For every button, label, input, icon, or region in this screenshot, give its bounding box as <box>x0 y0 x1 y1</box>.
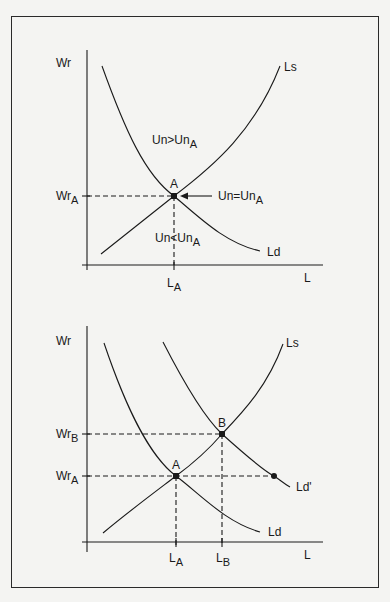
bottom-point-a-label: A <box>172 459 180 471</box>
bottom-point-a-marker <box>173 473 179 479</box>
bottom-wrb-label-main: Wr <box>56 427 71 441</box>
top-point-a-label: A <box>170 178 178 190</box>
bottom-lb-label-sub: B <box>223 556 230 568</box>
bottom-wra-label: WrA <box>56 470 78 482</box>
top-demand-curve-label: Ld <box>267 246 280 258</box>
top-la-label: LA <box>167 277 181 289</box>
top-demand-curve-ld <box>102 66 260 251</box>
top-x-axis-label: L <box>304 272 311 284</box>
top-wra-label: WrA <box>56 190 78 202</box>
equilibrium-arrow-head <box>180 193 188 200</box>
region-label-above-main: Un>Un <box>152 133 190 147</box>
bottom-point-b-label: B <box>218 417 226 429</box>
bottom-la-label-main: L <box>169 551 176 565</box>
top-wra-label-main: Wr <box>56 189 71 203</box>
bottom-wra-label-main: Wr <box>56 469 71 483</box>
bottom-la-label-sub: A <box>176 556 183 568</box>
bottom-la-label: LA <box>169 552 183 564</box>
region-label-below-main: Un<Un <box>155 231 193 245</box>
top-la-label-sub: A <box>174 281 181 293</box>
top-supply-curve-ls <box>101 66 280 254</box>
top-y-axis-label: Wr <box>56 57 71 69</box>
equilibrium-label-main: Un=Un <box>218 189 256 203</box>
region-label-below: Un<UnA <box>155 232 200 244</box>
bottom-wrb-label-sub: B <box>71 432 78 444</box>
equilibrium-label-sub: A <box>256 194 263 206</box>
bottom-y-axis-label: Wr <box>56 335 71 347</box>
bottom-wra-label-sub: A <box>71 474 78 486</box>
bottom-point-b-marker <box>219 431 225 437</box>
region-label-below-sub: A <box>193 236 200 248</box>
equilibrium-label: Un=UnA <box>218 190 263 202</box>
bottom-demand-shifted-curve-label: Ld' <box>296 481 312 493</box>
top-wra-label-sub: A <box>71 194 78 206</box>
bottom-lb-label-main: L <box>216 551 223 565</box>
bottom-x-axis-label: L <box>304 549 311 561</box>
region-label-above-sub: A <box>190 138 197 150</box>
bottom-ld-shifted-point-marker <box>271 473 277 479</box>
top-la-label-main: L <box>167 276 174 290</box>
bottom-demand-curve-ld <box>104 343 260 532</box>
labor-market-diagram <box>0 0 390 602</box>
bottom-lb-label: LB <box>216 552 230 564</box>
top-point-a-marker <box>171 193 177 199</box>
bottom-supply-curve-label: Ls <box>286 337 299 349</box>
bottom-wrb-label: WrB <box>56 428 78 440</box>
bottom-demand-curve-ld-shifted <box>163 342 290 487</box>
bottom-demand-curve-label: Ld <box>268 526 281 538</box>
bottom-supply-curve-ls <box>103 344 283 533</box>
region-label-above: Un>UnA <box>152 134 197 146</box>
top-supply-curve-label: Ls <box>284 61 297 73</box>
